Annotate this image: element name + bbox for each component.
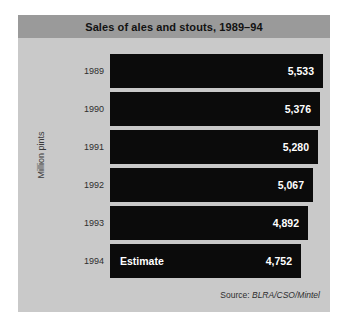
chart-title: Sales of ales and stouts, 1989–94: [85, 21, 263, 33]
bar-row: 19925,067: [18, 168, 330, 202]
bar: 5,067: [110, 168, 313, 202]
bar: Estimate4,752: [110, 244, 301, 278]
plot-area: 19895,53319905,37619915,28019925,0671993…: [18, 38, 330, 312]
bar-year-label: 1992: [58, 180, 104, 190]
bar-value-label: 5,067: [278, 179, 304, 191]
bar-year-label: 1993: [58, 218, 104, 228]
source-note: Source: BLRA/CSO/Mintel: [220, 290, 320, 300]
bar-value-label: 4,752: [266, 255, 292, 267]
chart-figure: Sales of ales and stouts, 1989–94 Millio…: [0, 0, 346, 328]
source-attribution: BLRA/CSO/Mintel: [252, 290, 320, 300]
bar-row: 19934,892: [18, 206, 330, 240]
chart-panel: Sales of ales and stouts, 1989–94 Millio…: [18, 15, 330, 312]
bar: 5,280: [110, 130, 318, 164]
bar-year-label: 1994: [58, 256, 104, 266]
bar: 5,533: [110, 54, 323, 88]
bar-value-label: 5,533: [288, 65, 314, 77]
bar-row: 19915,280: [18, 130, 330, 164]
bar-value-label: 5,376: [285, 103, 311, 115]
source-prefix: Source:: [220, 290, 252, 300]
bar-row: 1994Estimate4,752: [18, 244, 330, 278]
bar: 5,376: [110, 92, 320, 126]
bar-year-label: 1991: [58, 142, 104, 152]
bar-year-label: 1989: [58, 66, 104, 76]
chart-title-band: Sales of ales and stouts, 1989–94: [18, 15, 330, 38]
bar: 4,892: [110, 206, 308, 240]
bar-row: 19905,376: [18, 92, 330, 126]
bar-year-label: 1990: [58, 104, 104, 114]
bar-row: 19895,533: [18, 54, 330, 88]
bar-value-label: 4,892: [273, 217, 299, 229]
bar-annotation: Estimate: [120, 255, 164, 267]
bar-value-label: 5,280: [283, 141, 309, 153]
